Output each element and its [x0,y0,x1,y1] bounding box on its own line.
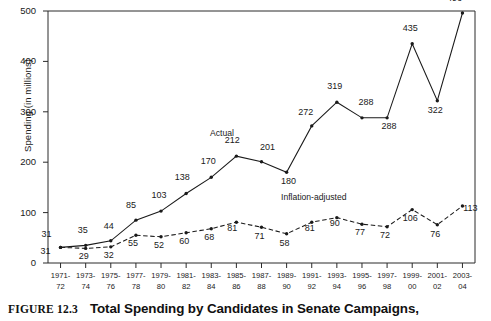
data-value-label: 29 [72,251,96,261]
y-tick-label: 400 [6,55,36,66]
data-value-label: 32 [97,250,121,260]
figure-caption: FIGURE 12.3 Total Spending by Candidates… [0,296,491,321]
y-tick-label: 200 [6,156,36,167]
series-annotation-inflation-adjusted: Inflation-adjusted [281,192,346,202]
data-value-label: 71 [248,231,272,241]
line-chart-svg [0,0,491,292]
data-value-label: 180 [277,176,301,186]
data-value-label: 106 [398,213,422,223]
data-value-label: 55 [121,238,145,248]
data-value-label: 76 [423,229,447,239]
figure-number: FIGURE 12.3 [8,303,78,315]
data-value-label: 496 [442,0,466,3]
data-value-label: 113 [458,203,482,213]
y-tick-label: 500 [6,5,36,16]
figure-container: Spending (in millions) 01002003004005001… [0,0,491,321]
chart-plot-area: Spending (in millions) 01002003004005001… [0,0,491,292]
data-value-label: 44 [97,221,121,231]
data-value-label: 103 [147,190,171,200]
data-value-label: 81 [298,223,322,233]
data-value-label: 58 [273,238,297,248]
y-tick-label: 100 [6,207,36,218]
data-value-label: 272 [294,107,318,117]
series-annotation-actual: Actual [210,128,234,138]
data-value-label: 77 [348,227,372,237]
data-value-label: 435 [398,23,422,33]
data-value-label: 81 [220,223,244,233]
data-value-label: 35 [71,225,95,235]
data-value-label: 72 [373,230,397,240]
data-value-label: 322 [423,105,447,115]
data-value-label: 68 [197,232,221,242]
data-value-label: 52 [147,240,171,250]
data-value-label: 138 [170,172,194,182]
x-tick-label: 2003-04 [442,271,482,292]
data-value-label: 288 [354,97,378,107]
data-value-label: 60 [172,236,196,246]
data-value-label: 90 [323,218,347,228]
data-value-label: 31 [35,229,59,239]
data-value-label: 319 [323,81,347,91]
figure-title: Total Spending by Candidates in Senate C… [90,301,419,316]
data-value-label: 31 [34,246,58,256]
data-value-label: 288 [377,121,401,131]
data-value-label: 85 [119,200,143,210]
y-tick-label: 300 [6,106,36,117]
y-tick-label: 0 [6,257,36,268]
data-value-label: 201 [256,142,280,152]
data-value-label: 170 [196,156,220,166]
